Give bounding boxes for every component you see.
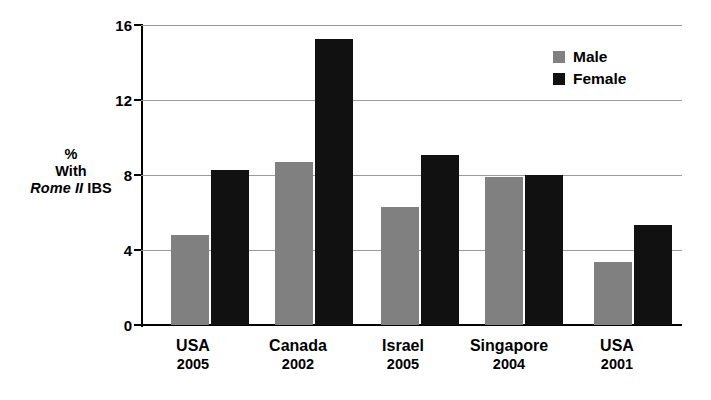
y-tick-mark-8 (134, 174, 141, 176)
bar-male-singapore-2004 (485, 177, 523, 325)
legend-item-female: Female (553, 68, 693, 90)
bar-male-israel-2005 (381, 207, 419, 325)
x-group-name-0: USA (176, 337, 210, 354)
bar-male-usa-2005 (171, 235, 209, 325)
y-tick-mark-12 (134, 99, 141, 101)
x-group-label-3: Singapore 2004 (452, 336, 566, 373)
bar-male-canada-2002 (275, 162, 313, 325)
y-tick-label-group: 16 12 8 4 0 (88, 0, 132, 400)
y-tick-label-0: 0 (94, 318, 132, 333)
x-group-name-4: USA (600, 337, 634, 354)
y-tick-mark-4 (134, 249, 141, 251)
y-tick-label-8: 8 (94, 168, 132, 183)
x-group-label-2: Israel 2005 (351, 336, 455, 373)
x-group-label-1: Canada 2002 (246, 336, 350, 373)
bar-female-usa-2001 (634, 225, 672, 325)
legend-item-male: Male (553, 46, 693, 68)
legend-swatch-male-icon (553, 51, 565, 63)
y-tick-mark-0 (134, 324, 141, 326)
legend-label-female: Female (573, 71, 626, 87)
y-tick-label-4: 4 (94, 243, 132, 258)
x-group-name-1: Canada (269, 337, 327, 354)
x-group-name-3: Singapore (470, 337, 548, 354)
y-axis-label-rome-italic: Rome II (30, 180, 83, 196)
bar-female-canada-2002 (315, 39, 353, 325)
x-group-year-2: 2005 (351, 355, 455, 373)
y-tick-label-16: 16 (94, 18, 132, 33)
chart-legend: Male Female (553, 46, 693, 90)
gridline-16 (141, 25, 682, 26)
bar-female-singapore-2004 (525, 175, 563, 325)
bar-female-usa-2005 (211, 170, 249, 325)
x-group-year-4: 2001 (565, 355, 669, 373)
x-group-year-3: 2004 (452, 355, 566, 373)
legend-swatch-female-icon (553, 73, 565, 85)
bar-male-usa-2001 (594, 262, 632, 325)
y-tick-mark-16 (134, 24, 141, 26)
x-group-label-0: USA 2005 (141, 336, 245, 373)
x-group-year-1: 2002 (246, 355, 350, 373)
bar-chart: % With Rome II IBS 16 12 8 4 0 USA 2005 … (0, 0, 711, 400)
x-group-year-0: 2005 (141, 355, 245, 373)
gridline-12 (141, 100, 682, 101)
y-tick-label-12: 12 (94, 93, 132, 108)
x-group-name-2: Israel (382, 337, 424, 354)
x-group-label-4: USA 2001 (565, 336, 669, 373)
bar-female-israel-2005 (421, 155, 459, 325)
legend-label-male: Male (573, 49, 607, 65)
